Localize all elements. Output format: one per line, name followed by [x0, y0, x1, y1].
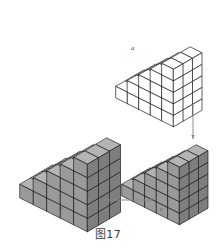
label-b: b	[59, 205, 63, 212]
figure-container: a b c 图17	[0, 0, 216, 250]
figure-illustration	[0, 0, 216, 250]
figure-caption: 图17	[0, 225, 216, 241]
label-a: a	[131, 45, 135, 52]
label-c: c	[160, 206, 163, 213]
